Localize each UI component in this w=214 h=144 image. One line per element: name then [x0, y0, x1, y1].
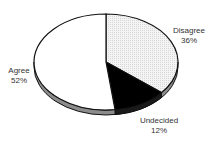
pie-slices [34, 14, 178, 110]
label-agree-pct: 52% [4, 76, 34, 86]
label-undecided: Undecided 12% [134, 116, 184, 136]
label-undecided-name: Undecided [134, 116, 184, 126]
label-undecided-pct: 12% [134, 126, 184, 136]
label-disagree: Disagree 36% [166, 26, 212, 46]
label-agree: Agree 52% [4, 66, 34, 86]
label-disagree-name: Disagree [166, 26, 212, 36]
label-agree-name: Agree [4, 66, 34, 76]
pie-slice-agree [34, 14, 115, 110]
label-disagree-pct: 36% [166, 36, 212, 46]
